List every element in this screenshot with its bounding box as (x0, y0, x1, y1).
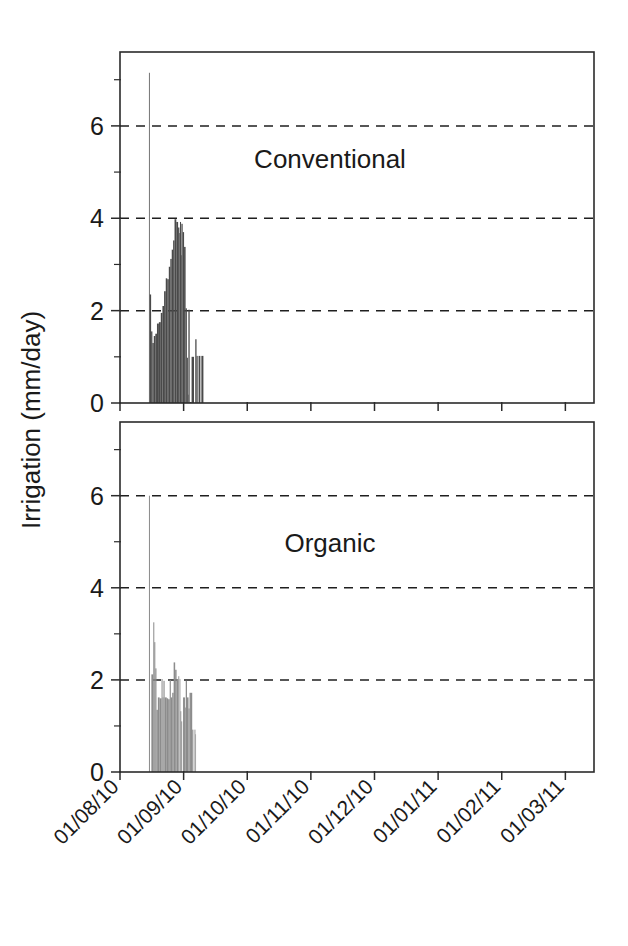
plot-frame (120, 52, 594, 403)
bar-series-conventional (149, 73, 203, 403)
bar (189, 708, 190, 772)
bar (164, 291, 166, 403)
panel-conventional: 0246Conventional (90, 52, 594, 417)
bar (184, 247, 186, 403)
y-tick-label: 0 (90, 389, 104, 417)
bar (195, 339, 196, 403)
bar (181, 224, 182, 403)
bar (166, 278, 168, 403)
y-tick-label: 2 (90, 297, 104, 325)
bar (197, 356, 198, 403)
bar (162, 679, 163, 772)
bar (156, 710, 157, 772)
bar (188, 310, 189, 403)
bar (151, 331, 152, 403)
y-tick-label: 4 (90, 204, 104, 232)
bar (169, 267, 171, 403)
bar (181, 721, 182, 772)
bar (180, 222, 181, 403)
bar (167, 698, 168, 772)
bar (192, 357, 194, 403)
bar (180, 711, 181, 772)
bar (177, 679, 179, 772)
bar (192, 730, 193, 772)
x-tick-label: 01/08/10 (49, 775, 123, 849)
bar (150, 294, 151, 403)
bar (190, 693, 191, 772)
bar (175, 670, 176, 772)
bar (163, 681, 164, 772)
bar (173, 240, 174, 403)
irrigation-figure: Irrigation (mm/day) 0246Conventional 024… (0, 0, 628, 946)
bar (172, 250, 173, 403)
bar (195, 730, 196, 772)
bar (186, 681, 187, 772)
x-tick-label: 01/02/11 (432, 775, 505, 848)
bar (154, 336, 156, 403)
bar (199, 356, 201, 403)
panel-annotation-organic: Organic (284, 528, 375, 558)
chart-canvas: Irrigation (mm/day) 0246Conventional 024… (0, 0, 628, 946)
bar (191, 693, 192, 772)
x-tick-label: 01/11/10 (241, 775, 314, 848)
x-tick-label: 01/12/10 (303, 775, 377, 849)
y-axis-title-group: Irrigation (mm/day) (16, 311, 46, 529)
bar (201, 356, 203, 403)
bar (158, 697, 160, 772)
bar (171, 697, 172, 772)
bar-series-organic (149, 496, 196, 772)
bar (179, 233, 180, 403)
bar (175, 219, 177, 403)
bar (172, 693, 173, 772)
bar (183, 697, 185, 772)
bar (161, 313, 163, 403)
bar (178, 228, 179, 404)
bar (149, 496, 150, 772)
bar (178, 676, 179, 772)
bar (165, 697, 167, 772)
bar (154, 642, 155, 772)
panel-organic: 0246Organic (90, 422, 594, 786)
x-tick-label: 01/03/11 (495, 775, 568, 848)
bar (155, 668, 156, 772)
y-tick-label: 4 (90, 574, 104, 602)
bar (162, 306, 164, 403)
x-tick-label: 01/10/10 (176, 775, 250, 849)
bar (167, 279, 169, 403)
bar (152, 343, 153, 403)
y-axis-title: Irrigation (mm/day) (16, 311, 46, 529)
bar (186, 308, 187, 403)
bar (176, 222, 178, 403)
bar (195, 734, 196, 772)
x-tick-label: 01/09/10 (112, 775, 186, 849)
bar (187, 697, 189, 772)
bar (155, 334, 157, 403)
panel-annotation-conventional: Conventional (254, 144, 406, 174)
bar (153, 622, 154, 772)
bar (157, 324, 159, 403)
bar (185, 708, 186, 772)
bar (170, 680, 171, 772)
bar (163, 697, 164, 772)
bar (160, 698, 162, 772)
bar (183, 232, 184, 403)
bar (159, 322, 161, 403)
y-tick-label: 6 (90, 482, 104, 510)
x-tick-label: 01/01/11 (368, 775, 441, 848)
y-tick-label: 2 (90, 666, 104, 694)
bar (180, 679, 181, 772)
bar (151, 674, 153, 772)
bar (149, 73, 150, 403)
bar (187, 358, 188, 403)
bar (174, 662, 176, 772)
bar (170, 259, 171, 403)
bar (168, 699, 170, 772)
y-tick-label: 6 (90, 112, 104, 140)
x-axis-tick-labels: 01/08/1001/09/1001/10/1001/11/1001/12/10… (49, 775, 568, 849)
